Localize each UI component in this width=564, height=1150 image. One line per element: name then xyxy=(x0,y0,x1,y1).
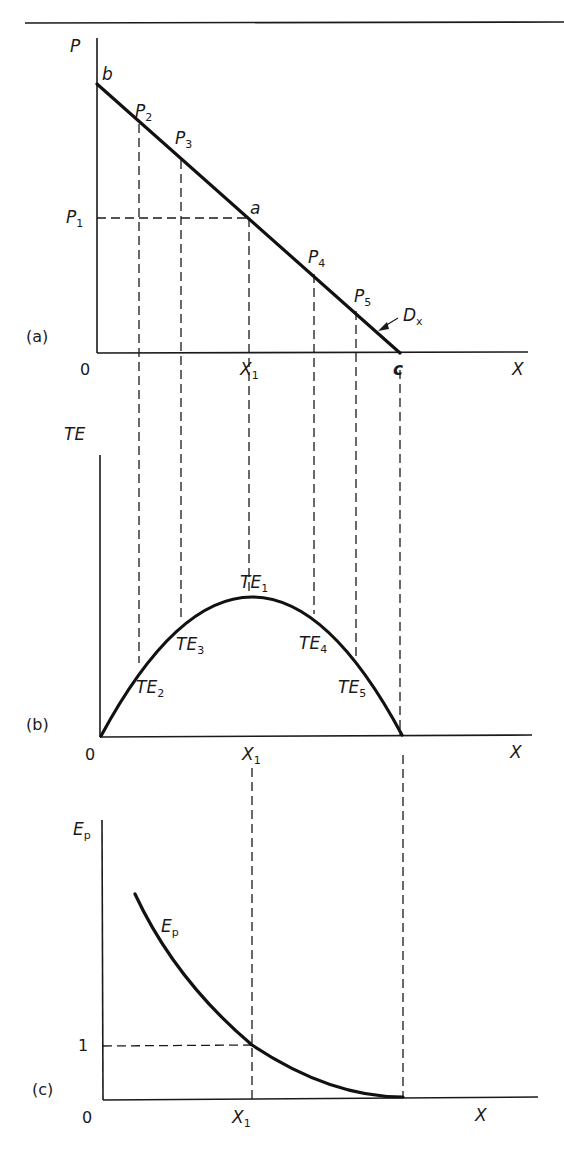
label-te2: TE2 xyxy=(136,677,164,700)
panel-c-y-axis xyxy=(102,820,103,1100)
label-x1-c: X1 xyxy=(231,1107,251,1130)
label-ep: Ep xyxy=(161,916,179,939)
panel-b-x-label: X xyxy=(509,742,522,762)
panel-a-x-label: X xyxy=(511,359,524,379)
panel-b-y-label: TE xyxy=(64,424,85,444)
panel-c-y-label: Ep xyxy=(73,819,91,842)
panel-a-origin: 0 xyxy=(80,360,90,379)
dx-arrowhead-icon xyxy=(378,322,389,331)
label-te4: TE4 xyxy=(299,633,327,656)
label-one: 1 xyxy=(78,1036,88,1055)
panel-b-x-axis xyxy=(100,735,532,737)
label-p5: P5 xyxy=(354,286,371,309)
label-p2: P2 xyxy=(135,101,152,124)
dash-one xyxy=(103,1045,252,1046)
label-a: a xyxy=(250,198,260,218)
panel-c-x-axis xyxy=(103,1097,538,1100)
panel-a-tag: (a) xyxy=(26,327,48,346)
panel-b-total-expenditure: TE TE1 TE3 TE2 TE4 TE5 (b) 0 X1 X xyxy=(26,424,532,767)
top-rule xyxy=(25,22,564,23)
label-x1-b: X1 xyxy=(241,744,261,767)
panel-b-origin: 0 xyxy=(85,745,95,764)
label-dx: Dx xyxy=(403,305,423,328)
label-te1: TE1 xyxy=(240,572,268,595)
panel-c-origin: 0 xyxy=(82,1108,92,1127)
label-p4: P4 xyxy=(308,247,325,270)
panel-b-tag: (b) xyxy=(26,715,49,734)
ep-curve xyxy=(135,894,403,1097)
label-p3: P3 xyxy=(175,128,192,151)
panel-a-y-label: P xyxy=(70,36,81,56)
panel-a-x-axis xyxy=(97,352,528,353)
panel-c-x-label: X xyxy=(474,1105,487,1125)
panel-c-tag: (c) xyxy=(32,1080,53,1099)
label-te3: TE3 xyxy=(176,634,204,657)
label-te5: TE5 xyxy=(338,677,366,700)
te-curve xyxy=(101,597,402,736)
label-x1-a: X1 xyxy=(239,359,259,382)
label-p1: P1 xyxy=(66,207,83,230)
figure: P b P2 P3 a P1 P4 P5 Dx (a) 0 X1 c X TE … xyxy=(0,0,564,1150)
panel-a-demand: P b P2 P3 a P1 P4 P5 Dx (a) 0 X1 c X xyxy=(26,36,528,735)
panel-c-elasticity: Ep Ep 1 (c) 0 X1 X xyxy=(32,819,538,1130)
label-c: c xyxy=(393,359,403,379)
label-b: b xyxy=(102,64,113,84)
